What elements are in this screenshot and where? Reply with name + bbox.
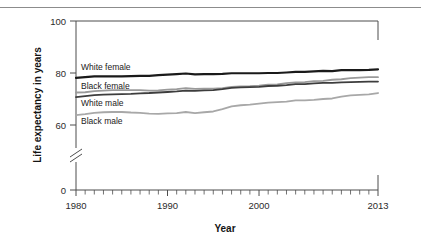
- x-tick-label-2013: 2013: [367, 200, 388, 211]
- y-tick-labels: 100 80 60 0: [50, 16, 66, 196]
- x-tick-label-1980: 1980: [65, 200, 86, 211]
- y-tick-label-60: 60: [55, 120, 66, 131]
- series-label-black-female: Black female: [81, 81, 130, 91]
- series-label-white-female: White female: [81, 62, 131, 72]
- x-tick-label-1990: 1990: [157, 200, 178, 211]
- x-tick-label-2000: 2000: [248, 200, 269, 211]
- y-axis-break-icon: [70, 149, 82, 162]
- data-series-group: [76, 69, 378, 115]
- x-tick-labels: 1980 1990 2000 2013: [65, 200, 388, 211]
- y-tick-label-0: 0: [61, 185, 66, 196]
- figure-container: Life expectancy in years Year 100 80: [0, 0, 421, 239]
- y-tick-label-80: 80: [55, 68, 66, 79]
- series-label-white-male: White male: [81, 98, 124, 108]
- line-chart: Life expectancy in years Year 100 80: [0, 0, 421, 239]
- y-tick-label-100: 100: [50, 16, 66, 27]
- y-axis-title: Life expectancy in years: [32, 47, 43, 163]
- y-tick-marks: [70, 21, 76, 190]
- series-label-black-male: Black male: [81, 116, 123, 126]
- x-tick-marks: [76, 190, 378, 196]
- x-axis-title: Year: [214, 223, 235, 234]
